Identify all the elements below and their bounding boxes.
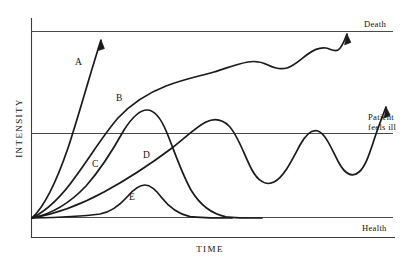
curve-label-A: A — [75, 57, 82, 67]
patient-feels-ill-label-line1: Patient — [368, 112, 394, 122]
patient-feels-ill-label-line2: feels ill — [368, 122, 397, 132]
curve-C-path — [32, 110, 262, 218]
figure-canvas: Death Patient feels ill Health A B C D E… — [0, 0, 417, 261]
x-axis-title: TIME — [196, 244, 224, 254]
curve-label-D: D — [143, 150, 150, 160]
curve-label-E: E — [129, 192, 135, 202]
y-axis-title: INTENSITY — [14, 98, 24, 158]
curve-label-B: B — [116, 93, 123, 103]
curve-A-path — [32, 40, 101, 218]
illness-intensity-figure: Death Patient feels ill Health A B C D E… — [0, 0, 417, 261]
death-label: Death — [364, 19, 386, 29]
curve-label-C: C — [92, 159, 99, 169]
health-label: Health — [362, 223, 387, 233]
